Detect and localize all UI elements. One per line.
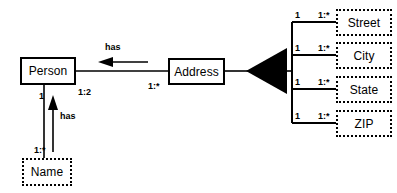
entity-street[interactable]: Street bbox=[336, 9, 392, 36]
entity-zip-label: ZIP bbox=[355, 118, 374, 130]
entity-city-label: City bbox=[353, 50, 374, 62]
has-arrow-head-address bbox=[98, 57, 113, 67]
cardinality-zip-right: 1:* bbox=[318, 112, 330, 121]
entity-street-label: Street bbox=[348, 17, 381, 29]
entity-state[interactable]: State bbox=[336, 76, 392, 103]
cardinality-zip-left: 1 bbox=[295, 112, 300, 121]
entity-address-label: Address bbox=[174, 66, 219, 78]
cardinality-state-left: 1 bbox=[295, 78, 300, 87]
solid-triangle-marker bbox=[246, 48, 287, 94]
diagram-canvas: Person Address Name Street City State ZI… bbox=[0, 0, 397, 193]
cardinality-city-left: 1 bbox=[295, 44, 300, 53]
entity-name[interactable]: Name bbox=[22, 158, 72, 186]
entity-city[interactable]: City bbox=[336, 42, 392, 69]
entity-name-label: Name bbox=[31, 166, 63, 178]
cardinality-person-to-name: 1 bbox=[39, 92, 44, 101]
entity-person-label: Person bbox=[29, 65, 68, 77]
entity-state-label: State bbox=[350, 84, 379, 96]
entity-zip[interactable]: ZIP bbox=[336, 110, 392, 137]
relationship-label-has-name: has bbox=[60, 112, 76, 121]
cardinality-state-right: 1:* bbox=[318, 78, 330, 87]
entity-address[interactable]: Address bbox=[168, 58, 225, 85]
cardinality-street-left: 1 bbox=[295, 11, 300, 20]
cardinality-street-right: 1:* bbox=[318, 11, 330, 20]
entity-person[interactable]: Person bbox=[20, 57, 76, 85]
cardinality-city-right: 1:* bbox=[318, 44, 330, 53]
cardinality-name-to-person: 1:* bbox=[34, 146, 46, 155]
cardinality-address-to-person: 1:* bbox=[148, 82, 160, 91]
relationship-label-has-address: has bbox=[105, 43, 121, 52]
has-arrow-head-name bbox=[48, 95, 58, 110]
cardinality-person-to-address: 1:2 bbox=[78, 88, 91, 97]
